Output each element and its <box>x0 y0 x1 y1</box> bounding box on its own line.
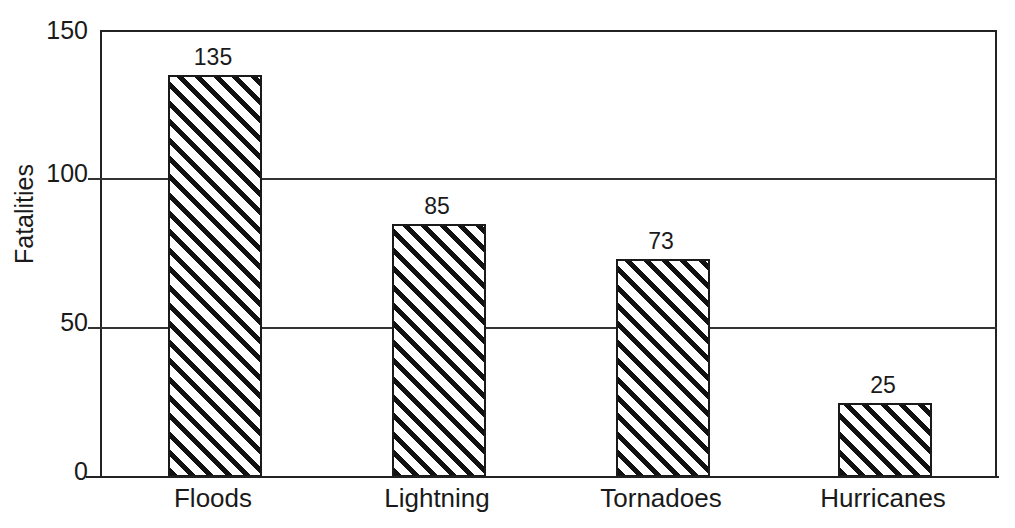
bar-lightning[interactable] <box>392 224 486 477</box>
x-tick-label-tornadoes: Tornadoes <box>591 484 731 513</box>
plot-area <box>100 30 997 477</box>
x-axis-baseline <box>86 476 999 478</box>
x-tick-label-lightning: Lightning <box>367 484 507 513</box>
bar-value-floods: 135 <box>166 46 260 69</box>
bar-value-lightning: 85 <box>390 195 484 218</box>
y-axis-title: Fatalities <box>7 104 41 324</box>
bar-hurricanes[interactable] <box>838 403 932 477</box>
x-tick-label-hurricanes: Hurricanes <box>813 484 953 513</box>
tick-mark-50 <box>88 327 102 329</box>
bar-floods[interactable] <box>168 75 262 477</box>
bar-value-tornadoes: 73 <box>614 230 708 253</box>
y-tick-label-100: 100 <box>18 161 88 186</box>
tick-mark-100 <box>88 178 102 180</box>
bar-chart-figure: Fatalities 150 100 50 0 135 85 73 25 Flo… <box>0 0 1015 528</box>
x-tick-label-floods: Floods <box>143 484 283 513</box>
y-tick-label-0: 0 <box>18 459 88 484</box>
y-tick-label-50: 50 <box>18 310 88 335</box>
y-tick-label-150: 150 <box>18 18 88 43</box>
bar-value-hurricanes: 25 <box>836 374 930 397</box>
bar-tornadoes[interactable] <box>616 259 710 477</box>
